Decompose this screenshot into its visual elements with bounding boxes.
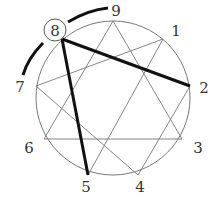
line-8-5	[62, 39, 88, 175]
line-7-4	[36, 86, 138, 175]
point-label-4: 4	[135, 178, 145, 196]
point-label-7: 7	[15, 78, 25, 96]
point-label-1: 1	[171, 22, 181, 40]
point-label-3: 3	[193, 139, 203, 157]
wing-arc-9	[68, 8, 108, 22]
point-label-2: 2	[199, 79, 209, 97]
point-label-6: 6	[24, 139, 34, 157]
line-5-1	[88, 39, 163, 175]
thin-lines	[36, 21, 190, 175]
line-1-7	[36, 39, 163, 86]
line-8-2	[62, 39, 190, 86]
wing-arc-7	[23, 43, 43, 75]
enneagram-diagram: 912345678	[0, 0, 218, 197]
point-label-5: 5	[81, 178, 91, 196]
enneagram-circle	[36, 21, 190, 175]
line-4-2	[138, 86, 190, 175]
point-label-9: 9	[111, 2, 121, 20]
point-label-8: 8	[50, 22, 60, 40]
